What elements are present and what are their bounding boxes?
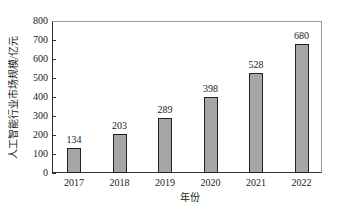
bar-value-label: 203 [105,120,135,131]
y-tick-label: 300 [28,110,48,121]
bar-2017 [67,148,81,173]
bar-value-label: 680 [287,30,317,41]
y-tick-label: 600 [28,53,48,64]
bar-2019 [158,118,172,173]
x-tick-label: 2017 [59,177,89,188]
y-tick-label: 0 [28,167,48,178]
y-tick-label: 100 [28,148,48,159]
y-axis-label: 人工智能行业市场规模/亿元 [5,18,20,178]
bar-2022 [295,44,309,173]
y-tick-label: 700 [28,34,48,45]
bar-value-label: 528 [241,59,271,70]
y-tick-label: 800 [28,15,48,26]
x-tick-label: 2020 [196,177,226,188]
bar-value-label: 289 [150,104,180,115]
y-tick-label: 400 [28,91,48,102]
x-axis-label: 年份 [170,189,210,204]
x-tick-label: 2018 [105,177,135,188]
y-tick-label: 200 [28,129,48,140]
y-tick-label: 500 [28,72,48,83]
bar-2018 [113,134,127,173]
x-tick-label: 2019 [150,177,180,188]
x-tick-label: 2021 [241,177,271,188]
bar-value-label: 134 [59,134,89,145]
plot-area [52,21,322,173]
x-tick-label: 2022 [287,177,317,188]
bar-value-label: 398 [196,83,226,94]
y-tick-mark [52,173,56,174]
bar-2020 [204,97,218,173]
bar-2021 [249,73,263,173]
